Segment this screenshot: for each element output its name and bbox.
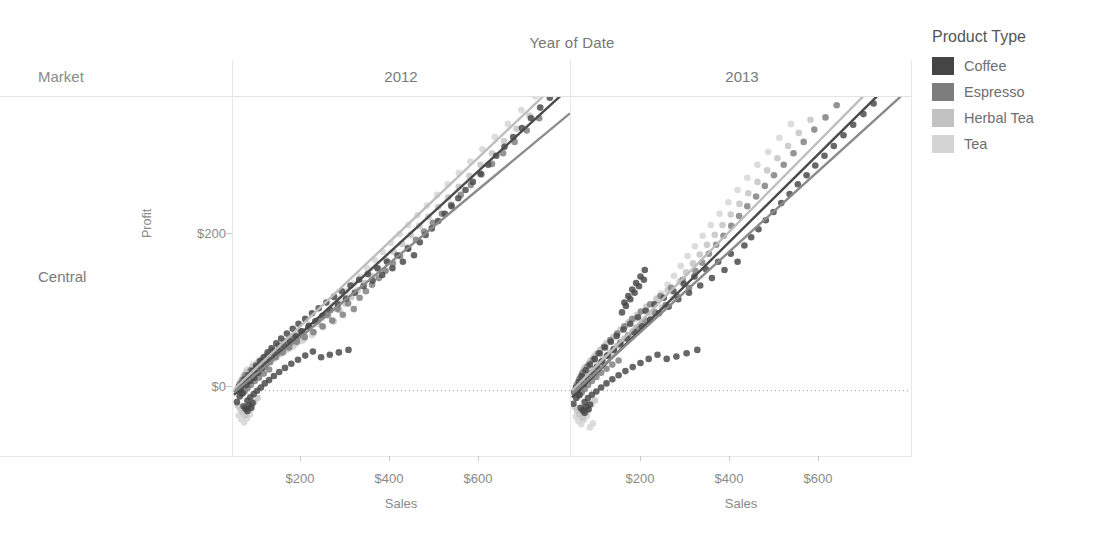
scatter-panel-2012[interactable]: [233, 97, 570, 456]
row-header-central[interactable]: Central: [38, 268, 86, 285]
x-tick-mark-400-p1: [389, 456, 390, 461]
x-axis-title-p1: Sales: [321, 496, 481, 511]
x-tick-label-200-p1: $200: [270, 471, 330, 486]
legend-swatch-icon: [932, 57, 954, 75]
legend-swatch-icon: [932, 135, 954, 153]
column-header-2013[interactable]: 2013: [572, 68, 912, 85]
x-tick-label-400-p2: $400: [699, 471, 759, 486]
trend-line-coffee: [572, 97, 911, 397]
y-tick-label-0: $0: [166, 379, 226, 394]
x-tick-mark-400-p2: [729, 456, 730, 461]
panel-bottom-axis: [0, 456, 912, 457]
panel-divider-right: [911, 60, 912, 456]
series-coffee: [234, 97, 553, 414]
row-field-label: Market: [38, 68, 84, 85]
legend-swatch-icon: [932, 109, 954, 127]
column-field-title: Year of Date: [232, 34, 912, 51]
legend-item-espresso[interactable]: Espresso: [932, 79, 1108, 105]
x-axis-title-p2: Sales: [661, 496, 821, 511]
series-espresso: [574, 102, 841, 399]
x-tick-mark-600-p1: [478, 456, 479, 461]
legend-swatch-icon: [932, 83, 954, 101]
legend: Product Type CoffeeEspressoHerbal TeaTea: [932, 28, 1108, 157]
y-tick-label-200: $200: [166, 226, 226, 241]
scatter-svg: [571, 97, 911, 456]
legend-item-coffee[interactable]: Coffee: [932, 53, 1108, 79]
viz-root: Year of Date Market 2012 2013 Central Pr…: [0, 0, 1108, 554]
legend-item-label: Espresso: [964, 84, 1024, 100]
legend-item-label: Coffee: [964, 58, 1006, 74]
x-tick-label-400-p1: $400: [359, 471, 419, 486]
x-tick-label-600-p2: $600: [788, 471, 848, 486]
column-header-2012[interactable]: 2012: [232, 68, 570, 85]
legend-item-label: Herbal Tea: [964, 110, 1034, 126]
x-tick-mark-200-p2: [640, 456, 641, 461]
scatter-panel-2013[interactable]: [571, 97, 911, 456]
series-coffee: [571, 97, 888, 416]
x-tick-label-600-p1: $600: [448, 471, 508, 486]
legend-item-tea[interactable]: Tea: [932, 131, 1108, 157]
y-tick-mark-200: [226, 233, 232, 234]
trend-line-espresso: [234, 113, 570, 392]
x-tick-label-200-p2: $200: [610, 471, 670, 486]
scatter-svg: [233, 97, 570, 456]
y-tick-mark-0: [226, 386, 232, 387]
x-tick-mark-600-p2: [818, 456, 819, 461]
legend-item-label: Tea: [964, 136, 987, 152]
legend-title: Product Type: [932, 28, 1108, 46]
y-axis-title: Profit: [140, 209, 154, 238]
x-tick-mark-200-p1: [300, 456, 301, 461]
legend-item-herbal-tea[interactable]: Herbal Tea: [932, 105, 1108, 131]
